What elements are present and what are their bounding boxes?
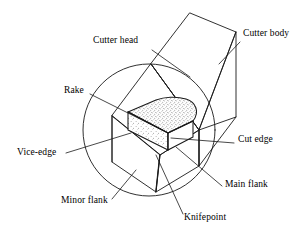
label-main-flank: Main flank xyxy=(225,180,268,190)
label-rake: Rake xyxy=(64,86,84,96)
label-cutter-body: Cutter body xyxy=(243,29,289,39)
leader-knifepoint xyxy=(156,155,183,214)
label-knifepoint: Knifepoint xyxy=(184,213,226,223)
cutting-insert xyxy=(128,97,197,150)
label-cutter-head: Cutter head xyxy=(93,36,138,46)
leader-cutter-body xyxy=(219,42,240,64)
label-minor-flank: Minor flank xyxy=(61,196,108,206)
cutting-tool-diagram: Cutter head Cutter body Rake Vice-edge C… xyxy=(0,0,308,241)
leader-vice-edge xyxy=(66,133,131,153)
label-vice-edge: Vice-edge xyxy=(17,148,56,158)
label-cut-edge: Cut edge xyxy=(238,135,273,145)
leader-minor-flank xyxy=(112,170,136,199)
